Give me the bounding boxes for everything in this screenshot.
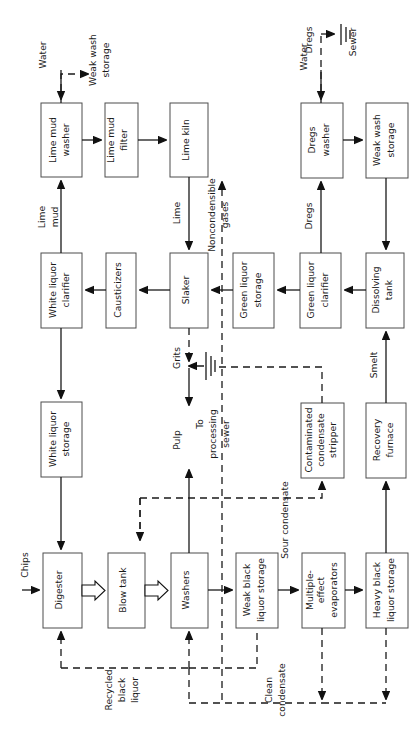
box-label: effect bbox=[315, 576, 326, 603]
box-label: White liquor bbox=[47, 411, 58, 467]
box-dregs-washer[interactable]: Dregs washer bbox=[301, 103, 343, 178]
flow-diagram-canvas: Lime mud washer Lime mud filter Lime kil… bbox=[0, 0, 420, 735]
flow-label-recycled-black-liquor: liquor bbox=[129, 677, 140, 703]
flow-label-weak-wash-out: Weak wash bbox=[87, 34, 98, 86]
box-weak-black-liquor-storage[interactable]: Weak black liquor storage bbox=[236, 553, 278, 628]
flow-label-recycled-black-liquor: Recycled bbox=[103, 669, 114, 710]
box-washers[interactable]: Washers bbox=[171, 553, 208, 628]
box-label: Green liquor bbox=[238, 261, 249, 318]
box-label: condensate bbox=[315, 413, 326, 467]
box-label: storage bbox=[60, 421, 71, 456]
dashed-lime-mud-washer-to-weak-wash bbox=[61, 74, 88, 103]
box-recovery-furnace[interactable]: Recovery furnace bbox=[366, 403, 406, 478]
flow-label-water-lime: Water bbox=[37, 41, 48, 68]
box-label: evaporators bbox=[328, 562, 339, 618]
box-label: clarifier bbox=[60, 272, 71, 307]
box-label: tank bbox=[383, 279, 394, 300]
box-label: Weak wash bbox=[371, 114, 382, 166]
box-lime-mud-washer[interactable]: Lime mud washer bbox=[41, 103, 82, 177]
box-label: Digester bbox=[53, 570, 64, 609]
box-blow-tank[interactable]: Blow tank bbox=[108, 553, 145, 628]
process-flow-diagram: Lime mud washer Lime mud filter Lime kil… bbox=[0, 0, 420, 735]
flow-label-lime: Lime bbox=[171, 202, 182, 225]
box-label: Green liquor bbox=[305, 261, 316, 318]
flow-label-recycled-black-liquor: black bbox=[116, 677, 127, 702]
flow-label-water-dregs: Water bbox=[298, 43, 309, 70]
box-contaminated-condensate-stripper[interactable]: Contaminated condensate stripper bbox=[301, 403, 344, 478]
box-label: filter bbox=[118, 129, 129, 151]
box-dissolving-tank[interactable]: Dissolving tank bbox=[366, 253, 404, 328]
flow-label-clean-condensate: condensate bbox=[276, 663, 287, 717]
arrow-blow-tank-to-washers bbox=[145, 581, 168, 600]
box-heavy-black-liquor-storage[interactable]: Heavy black liquor storage bbox=[366, 553, 408, 628]
flow-label-dregs-to-washer: Dregs bbox=[303, 202, 314, 229]
box-label: Weak black bbox=[241, 563, 252, 616]
flow-label-sewer: Sewer bbox=[347, 28, 358, 57]
flow-label-clean-condensate: Clean bbox=[263, 677, 274, 703]
box-lime-kiln[interactable]: Lime kiln bbox=[170, 103, 208, 177]
box-label: furnace bbox=[384, 422, 395, 457]
box-label: Slaker bbox=[180, 276, 191, 305]
box-white-liquor-clarifier[interactable]: White liquor clarifier bbox=[41, 253, 82, 328]
box-label: Lime kiln bbox=[180, 119, 191, 161]
box-label: Causticizers bbox=[112, 262, 123, 318]
box-multiple-effect-evaporators[interactable]: Multiple- effect evaporators bbox=[302, 553, 345, 628]
box-green-liquor-storage[interactable]: Green liquor storage bbox=[233, 253, 274, 328]
flow-label-weak-wash-out: storage bbox=[100, 42, 111, 77]
box-label: washer bbox=[320, 123, 331, 156]
box-label: Lime mud bbox=[105, 117, 116, 163]
box-label: Dissolving bbox=[370, 266, 381, 313]
flow-label-to-processing-sewer: sewer bbox=[220, 420, 231, 448]
box-label: Multiple- bbox=[304, 570, 315, 610]
arrow-digester-to-blow-tank bbox=[82, 581, 105, 600]
dashed-stripper-to-sewer bbox=[219, 367, 322, 403]
flow-label-noncondensible: Noncondensible bbox=[206, 178, 217, 252]
flow-label-lime-mud: mud bbox=[49, 207, 60, 228]
box-label: Washers bbox=[180, 570, 191, 609]
flow-label-chips: Chips bbox=[19, 552, 30, 578]
flow-label-lime-mud: Lime bbox=[36, 206, 47, 229]
dashed-weak-storage-to-recycled bbox=[189, 628, 257, 668]
box-white-liquor-storage[interactable]: White liquor storage bbox=[41, 402, 82, 477]
flow-label-smelt: Smelt bbox=[368, 351, 379, 378]
box-label: Dregs bbox=[306, 126, 317, 153]
box-label: Blow tank bbox=[117, 567, 128, 613]
flow-label-pulp: Pulp bbox=[171, 430, 182, 450]
box-slaker[interactable]: Slaker bbox=[170, 253, 208, 328]
box-label: stripper bbox=[327, 422, 338, 458]
box-digester[interactable]: Digester bbox=[43, 553, 82, 628]
flow-label-grits: Grits bbox=[171, 347, 182, 369]
box-lime-mud-filter[interactable]: Lime mud filter bbox=[105, 103, 138, 177]
sewer-symbol-grits bbox=[206, 352, 215, 380]
flow-label-to-processing-sewer: processing bbox=[207, 409, 218, 459]
box-label: Contaminated bbox=[303, 407, 314, 472]
box-label: White liquor bbox=[47, 262, 58, 318]
box-label: Heavy black bbox=[371, 561, 382, 618]
box-label: liquor storage bbox=[255, 558, 266, 622]
box-label: clarifier bbox=[319, 272, 330, 307]
box-label: washer bbox=[60, 123, 71, 156]
flow-label-to-processing-sewer: To bbox=[194, 419, 205, 430]
box-label: Recovery bbox=[371, 418, 382, 461]
box-label: Lime mud bbox=[47, 117, 58, 163]
box-label: storage bbox=[252, 272, 263, 307]
box-weak-wash-storage[interactable]: Weak wash storage bbox=[366, 103, 408, 178]
flow-label-sour-condensate: Sour condensate bbox=[279, 481, 290, 559]
flow-label-noncondensible: gases bbox=[219, 201, 230, 228]
dashed-sour-condensate bbox=[140, 482, 322, 498]
box-label: storage bbox=[385, 122, 396, 157]
box-label: liquor storage bbox=[385, 558, 396, 622]
box-causticizers[interactable]: Causticizers bbox=[106, 253, 136, 328]
box-green-liquor-clarifier[interactable]: Green liquor clarifier bbox=[300, 253, 341, 328]
